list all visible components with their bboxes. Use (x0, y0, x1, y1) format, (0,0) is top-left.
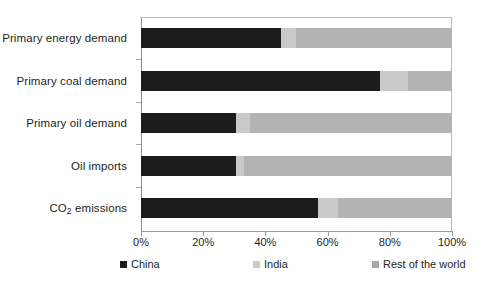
x-axis-tick-label-5: 100% (438, 236, 466, 248)
bar-row (141, 198, 452, 218)
bar-segment-rest-of-the-world (244, 156, 452, 176)
bar-segment-china (141, 28, 281, 48)
bar-row (141, 28, 452, 48)
x-axis-tick-label-3: 60% (317, 236, 339, 248)
y-axis-label-3: Oil imports (0, 160, 127, 173)
bar-segment-india (380, 71, 408, 91)
x-axis-tick-label-1: 20% (192, 236, 214, 248)
y-axis-minor-tick (136, 187, 141, 188)
y-axis-label-2: Primary oil demand (0, 117, 127, 130)
bar-row (141, 71, 452, 91)
bar-segment-rest-of-the-world (408, 71, 452, 91)
legend-swatch-icon (120, 261, 127, 268)
y-axis-minor-tick (136, 102, 141, 103)
legend-item-india[interactable]: India (253, 258, 288, 270)
y-axis-label-4: CO2 emissions (0, 202, 127, 216)
legend-label: China (131, 258, 160, 270)
bar-segment-rest-of-the-world (250, 113, 452, 133)
bar-row (141, 113, 452, 133)
legend-label: India (264, 258, 288, 270)
bar-segment-india (281, 28, 297, 48)
bar-segment-rest-of-the-world (296, 28, 452, 48)
bar-segment-china (141, 71, 380, 91)
bar-row (141, 156, 452, 176)
x-axis-tick-label-2: 40% (254, 236, 276, 248)
y-axis-minor-tick (136, 144, 141, 145)
chart-legend: ChinaIndiaRest of the world (120, 258, 460, 276)
bar-segment-india (236, 156, 244, 176)
bar-segment-china (141, 113, 236, 133)
legend-label: Rest of the world (383, 258, 466, 270)
y-axis-minor-tick (136, 59, 141, 60)
stacked-bar-chart: Primary energy demandPrimary coal demand… (0, 0, 481, 289)
legend-swatch-icon (253, 261, 260, 268)
y-axis-category-labels: Primary energy demandPrimary coal demand… (0, 18, 134, 240)
x-axis-tick-label-4: 80% (379, 236, 401, 248)
x-axis-tick-labels: 0%20%40%60%80%100% (0, 236, 481, 252)
y-axis-label-1: Primary coal demand (0, 75, 127, 88)
y-axis-label-0: Primary energy demand (0, 32, 127, 45)
bar-segment-china (141, 198, 318, 218)
bar-segment-china (141, 156, 236, 176)
legend-item-china[interactable]: China (120, 258, 160, 270)
bar-segment-india (236, 113, 250, 133)
bars-layer (141, 17, 452, 231)
bar-segment-india (318, 198, 338, 218)
legend-swatch-icon (372, 261, 379, 268)
legend-item-rest-of-the-world[interactable]: Rest of the world (372, 258, 466, 270)
bar-segment-rest-of-the-world (338, 198, 452, 218)
x-axis-tick-label-0: 0% (133, 236, 149, 248)
